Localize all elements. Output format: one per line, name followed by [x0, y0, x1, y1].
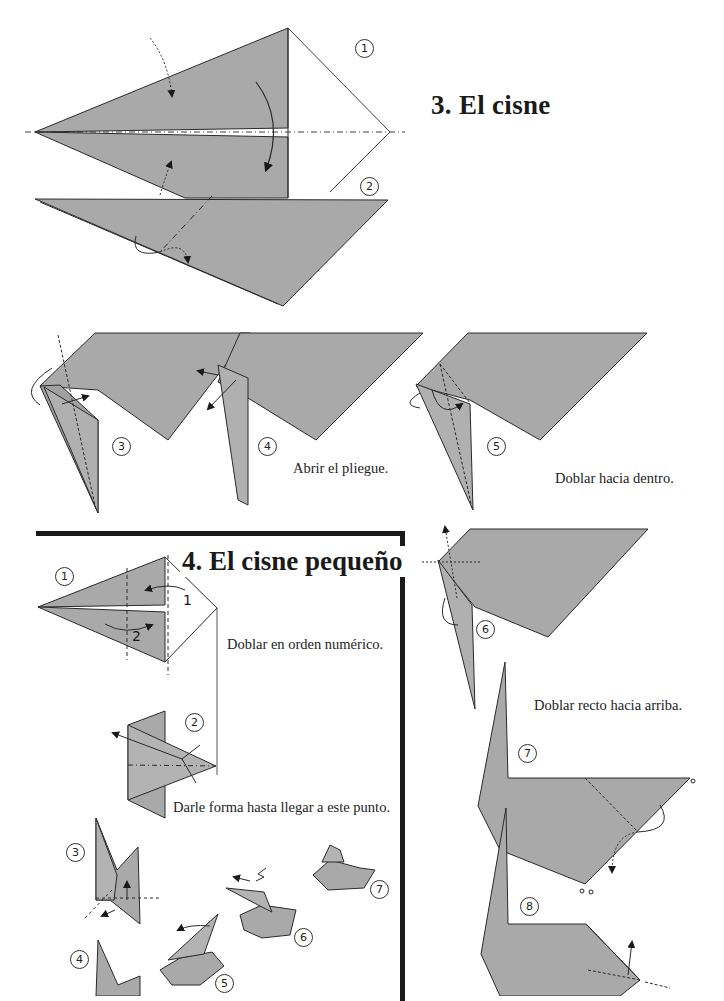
swan-step-number-4: 4: [258, 437, 277, 456]
small-swan-frame: [36, 531, 405, 1001]
small-swan-step-number-5: 5: [215, 974, 234, 993]
swan-step-6-diagram: [422, 527, 648, 709]
swan-step-1-diagram: [25, 28, 405, 198]
swan-step-2-diagram: [35, 196, 388, 306]
small-swan-step-number-2: 2: [185, 713, 204, 732]
small-swan-step-number-7: 7: [370, 880, 389, 899]
swan-step-number-2: 2: [360, 177, 379, 196]
swan-step-number-8: 8: [520, 897, 539, 916]
fold-order-label-2: 2: [132, 628, 141, 644]
caption-shape-to-this-point: Darle forma hasta llegar a este punto.: [173, 799, 390, 816]
swan-step-number-5: 5: [487, 437, 506, 456]
caption-fold-straight-up: Doblar recto hacia arriba.: [534, 697, 682, 714]
caption-fold-inside: Doblar hacia dentro.: [555, 470, 674, 487]
swan-step-number-3: 3: [112, 437, 131, 456]
swan-step-number-6: 6: [476, 620, 495, 639]
small-swan-step-number-6: 6: [294, 928, 313, 947]
small-swan-step-number-1: 1: [55, 567, 74, 586]
caption-fold-numeric-order: Doblar en orden numérico.: [227, 636, 383, 653]
small-swan-step-number-4: 4: [70, 950, 89, 969]
fold-order-label-1: 1: [183, 592, 192, 608]
section-3-title: 3. El cisne: [431, 90, 551, 121]
swan-step-3-diagram: [31, 333, 250, 513]
caption-open-fold: Abrir el pliegue.: [293, 460, 388, 477]
swan-step-number-7: 7: [518, 744, 537, 763]
swan-step-number-1: 1: [355, 39, 374, 58]
section-4-title: 4. El cisne pequeño: [180, 546, 405, 577]
small-swan-step-number-3: 3: [66, 843, 85, 862]
swan-step-4-diagram: [198, 333, 423, 505]
